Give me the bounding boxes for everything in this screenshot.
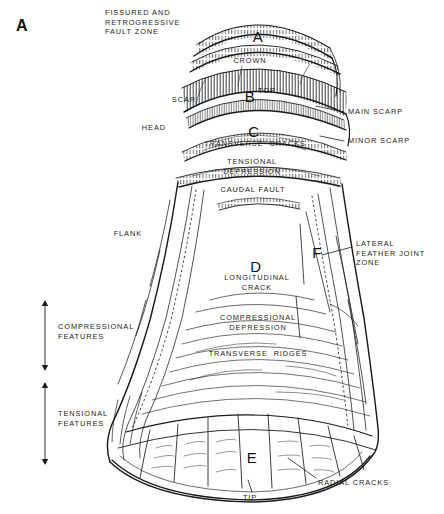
zone-letter-b-superscript-top: TOP [258,86,276,95]
label-longitudinal-crack: LONGITUDINAL CRACK [224,273,289,292]
label-lateral-feather-joint-zone: LATERAL FEATHER JOINT ZONE [356,239,425,268]
zone-letter-d: D [250,258,261,275]
panel-label: A [16,17,28,35]
label-tensional-features: TENSIONAL FEATURES [58,409,108,428]
left-toe-crumple [112,392,142,444]
feather-joint-leader [322,247,352,255]
label-transverse-ridges: TRANSVERSE RIDGES [209,349,308,359]
label-flank: FLANK [114,229,142,239]
label-fissured-retrogressive-fault-zone: FISSURED AND RETROGRESSIVE FAULT ZONE [105,8,180,37]
label-tip: TIP [243,493,257,503]
label-main-scarp: MAIN SCARP [348,107,403,117]
label-scar: SCAR [172,95,196,105]
longitudinal-crack [296,224,304,338]
label-compressional-depression: COMPRESSIONAL DEPRESSION [220,313,296,332]
label-head: HEAD [142,123,166,133]
minor-scarp-leader [320,136,344,141]
landslide-body-outline [107,182,378,502]
label-minor-scarp: MINOR SCARP [348,136,410,146]
zone-letter-a: A [253,28,264,45]
label-transverse-cracks: TRANSVERSE CRACKS [204,139,305,149]
feature-bracket-arrows [42,300,48,465]
zone-letter-c: C [248,123,259,140]
tip-leader [248,480,252,492]
zone-letter-f: F [312,244,322,261]
label-tensional-depression: TENSIONAL DEPRESSION [223,157,280,176]
right-flank-inner-lines [306,188,366,430]
radial-cracks-leader [288,458,316,478]
label-caudal-fault: CAUDAL FAULT [220,185,285,195]
label-compressional-features: COMPRESSIONAL FEATURES [58,322,134,341]
figure-canvas: A FISSURED AND RETROGRESSIVE FAULT ZONE … [0,0,444,514]
label-crown: CROWN [233,56,266,66]
transverse-ridges [142,333,370,416]
toe-shading-strokes [152,439,334,472]
zone-letter-e: E [247,449,258,466]
label-radial-cracks: RADIAL CRACKS [318,478,389,488]
zone-letter-b: B [245,88,256,105]
